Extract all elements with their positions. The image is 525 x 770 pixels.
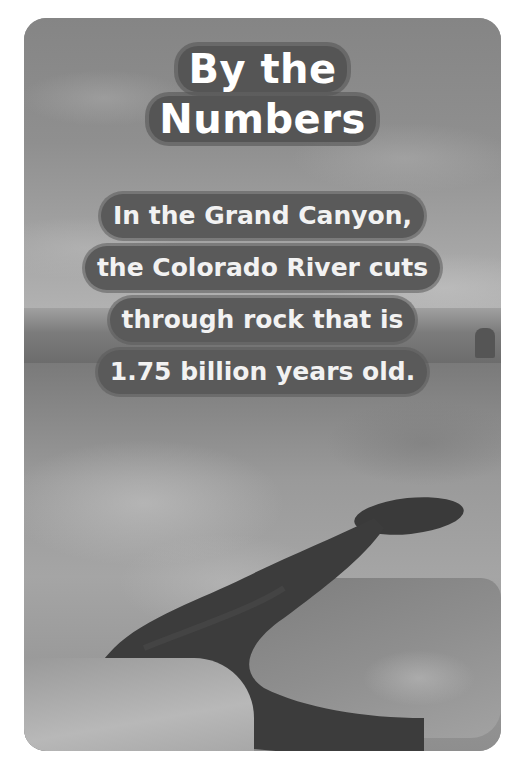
fact-line-2: the Colorado River cuts bbox=[85, 246, 440, 290]
title-line-2: Numbers bbox=[149, 96, 375, 142]
rock-formation-right bbox=[239, 578, 501, 738]
fact-line-3: through rock that is bbox=[110, 298, 416, 342]
fact-line-1: In the Grand Canyon, bbox=[101, 194, 424, 238]
title-line-1: By the bbox=[178, 46, 346, 92]
page-title: By the Numbers bbox=[24, 44, 501, 144]
by-the-numbers-card: By the Numbers In the Grand Canyon, the … bbox=[24, 18, 501, 751]
fact-text: In the Grand Canyon, the Colorado River … bbox=[24, 190, 501, 398]
fact-line-4: 1.75 billion years old. bbox=[98, 350, 427, 394]
rock-formation-left bbox=[24, 658, 254, 751]
